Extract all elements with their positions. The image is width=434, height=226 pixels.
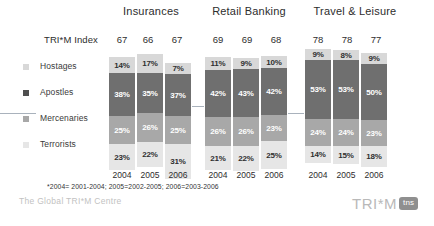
bar-retail-2006: 10% 42% 23% 25% [260, 56, 288, 169]
year-label-insurances-2006: 2006 [164, 170, 192, 180]
bar-insurances-2006: 7% 37% 25% 31% [164, 63, 192, 179]
year-label-travel-2004: 2004 [304, 170, 332, 180]
segment-terrorists: 23% [108, 144, 136, 170]
legend-swatch-apostles-icon [23, 90, 29, 96]
group-title-retail-banking: Retail Banking [199, 5, 299, 17]
trim-logo-wordmark: TRI*M [352, 196, 397, 211]
group-title-insurances: Insurances [103, 5, 199, 17]
legend-label-hostages: Hostages [40, 61, 77, 71]
segment-hostages: 9% [304, 49, 332, 60]
segment-apostles: 43% [232, 69, 260, 117]
legend-swatch-hostages-icon [23, 64, 29, 70]
bar-retail-2004: 11% 42% 26% 21% [204, 57, 232, 170]
legend-label-terrorists: Terrorists [40, 139, 76, 149]
year-label-insurances-2004: 2004 [108, 170, 136, 180]
segment-terrorists: 25% [260, 141, 288, 169]
index-value-travel-2005: 78 [336, 34, 358, 45]
segment-apostles: 50% [360, 64, 388, 120]
segment-mercenaries: 23% [360, 120, 388, 146]
bar-travel-2004: 9% 53% 24% 14% [304, 49, 332, 163]
trim-logo: TRI*M tns [352, 196, 418, 211]
segment-mercenaries: 25% [108, 116, 136, 144]
year-label-travel-2005: 2005 [332, 170, 360, 180]
segment-apostles: 42% [204, 70, 232, 117]
year-label-retail-2006: 2006 [260, 170, 288, 180]
segment-terrorists: 22% [232, 146, 260, 171]
segment-hostages: 10% [260, 56, 288, 68]
segment-hostages: 11% [204, 57, 232, 70]
index-value-retail-2005: 69 [236, 34, 258, 45]
segment-apostles: 37% [164, 74, 192, 116]
segment-hostages: 14% [108, 57, 136, 73]
segment-apostles: 53% [304, 60, 332, 119]
index-value-retail-2004: 69 [207, 34, 229, 45]
legend-swatch-mercenaries-icon [23, 116, 29, 122]
legend-label-apostles: Apostles [40, 87, 73, 97]
segment-hostages: 17% [136, 54, 164, 73]
legend-swatch-terrorists-icon [23, 142, 29, 148]
bar-retail-2005: 9% 43% 26% 22% [232, 58, 260, 171]
segment-mercenaries: 26% [232, 117, 260, 146]
bar-travel-2006: 9% 50% 23% 18% [360, 53, 388, 167]
year-label-retail-2005: 2005 [232, 170, 260, 180]
year-label-retail-2004: 2004 [204, 170, 232, 180]
segment-mercenaries: 23% [260, 115, 288, 141]
index-value-travel-2006: 77 [365, 34, 387, 45]
footnote: *2004= 2001-2004; 2005=2002-2005; 2006=2… [47, 183, 219, 190]
index-row-label: TRI*M Index [44, 34, 98, 45]
segment-terrorists: 21% [204, 146, 232, 170]
segment-terrorists: 18% [360, 146, 388, 167]
group-title-travel-leisure: Travel & Leisure [299, 5, 411, 17]
segment-hostages: 9% [232, 58, 260, 69]
segment-apostles: 35% [136, 73, 164, 113]
bar-insurances-2005: 17% 35% 26% 22% [136, 54, 164, 167]
alignment-rule-far-left [0, 113, 36, 114]
segment-terrorists: 14% [304, 146, 332, 163]
segment-terrorists: 22% [136, 142, 164, 167]
tns-logo-badge: tns [399, 197, 418, 210]
index-value-insurances-2006: 67 [166, 34, 188, 45]
segment-apostles: 38% [108, 73, 136, 116]
index-value-travel-2004: 78 [307, 34, 329, 45]
legend-label-mercenaries: Mercenaries [40, 113, 88, 123]
chart-canvas: Insurances Retail Banking Travel & Leisu… [0, 0, 434, 226]
segment-terrorists: 15% [332, 146, 360, 164]
year-label-insurances-2005: 2005 [136, 170, 164, 180]
segment-mercenaries: 26% [136, 113, 164, 142]
segment-mercenaries: 24% [332, 119, 360, 146]
bar-insurances-2004: 14% 38% 25% 23% [108, 57, 136, 170]
segment-mercenaries: 26% [204, 117, 232, 146]
segment-apostles: 42% [260, 68, 288, 115]
segment-mercenaries: 24% [304, 119, 332, 146]
index-value-insurances-2004: 67 [111, 34, 133, 45]
index-value-retail-2006: 68 [265, 34, 287, 45]
segment-apostles: 53% [332, 60, 360, 119]
year-label-travel-2006: 2006 [360, 170, 388, 180]
segment-hostages: 9% [360, 53, 388, 64]
segment-hostages: 8% [332, 50, 360, 60]
source-caption: The Global TRI*M Centre [19, 196, 122, 206]
segment-mercenaries: 25% [164, 116, 192, 144]
bar-travel-2005: 8% 53% 24% 15% [332, 50, 360, 164]
index-value-insurances-2005: 66 [137, 34, 159, 45]
segment-hostages: 7% [164, 63, 192, 74]
